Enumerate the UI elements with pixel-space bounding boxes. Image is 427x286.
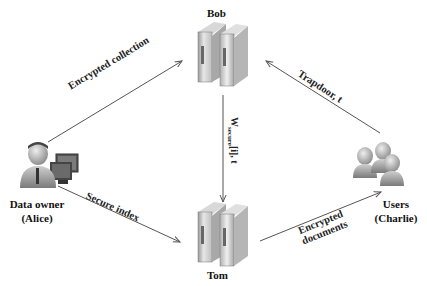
charlie-label-line2: (Charlie) <box>368 211 424 225</box>
alice-person-computer-icon <box>20 142 78 188</box>
edge-charlie-to-bob <box>266 61 380 133</box>
bob-label: Bob <box>207 6 226 20</box>
wsecure-sub: secure <box>226 127 234 146</box>
tom-label: Tom <box>207 268 228 282</box>
alice-label-line1: Data owner <box>6 197 68 211</box>
alice-label-line2: (Alice) <box>6 211 68 225</box>
bob-server-icon <box>198 22 248 86</box>
wsecure-main: W <box>229 117 240 127</box>
edge-alice-to-bob <box>48 61 182 142</box>
wsecure-rest: [i], t <box>229 146 240 164</box>
diagram-canvas <box>0 0 427 286</box>
tom-server-icon <box>198 202 248 266</box>
charlie-label: Users (Charlie) <box>368 197 424 225</box>
edge-label-wsecure-t: Wsecure[i], t <box>226 117 240 164</box>
alice-label: Data owner (Alice) <box>6 197 68 225</box>
charlie-user-group-icon <box>353 142 404 186</box>
charlie-label-line1: Users <box>368 197 424 211</box>
